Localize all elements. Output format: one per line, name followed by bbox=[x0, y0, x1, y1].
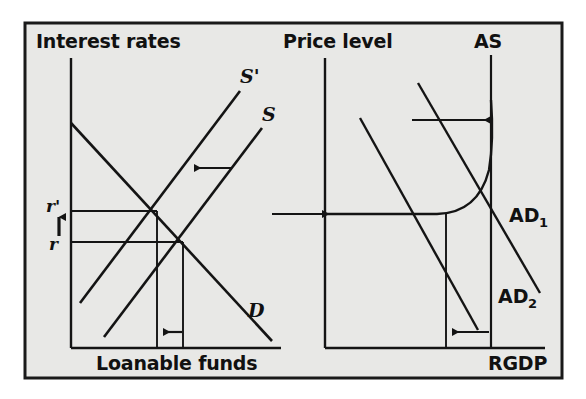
left-x-axis-label: Loanable funds bbox=[96, 352, 257, 374]
ad2-curve-label-subscript: 2 bbox=[528, 296, 537, 311]
ad1-curve-label-subscript: 1 bbox=[539, 215, 548, 230]
r-label: r bbox=[49, 234, 59, 254]
r-prime-label: r' bbox=[46, 196, 60, 216]
right-x-axis-label: RGDP bbox=[488, 352, 547, 374]
ad2-curve-label-text: AD bbox=[498, 285, 528, 307]
right-y-axis-label: Price level bbox=[283, 30, 393, 52]
economics-diagram-figure: Interest rates Loanable funds S' S D r' … bbox=[0, 0, 586, 399]
demand-curve-label: D bbox=[247, 299, 265, 321]
ad1-curve-label-text: AD bbox=[509, 204, 539, 226]
as-curve-label: AS bbox=[474, 30, 502, 52]
left-y-axis-label: Interest rates bbox=[36, 30, 181, 52]
supply-curve-label: S bbox=[262, 103, 276, 125]
supply-prime-curve-label: S' bbox=[240, 65, 260, 87]
figure-frame bbox=[25, 23, 562, 378]
diagram-canvas: Interest rates Loanable funds S' S D r' … bbox=[0, 0, 586, 399]
